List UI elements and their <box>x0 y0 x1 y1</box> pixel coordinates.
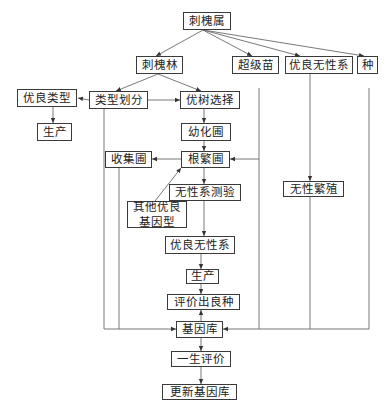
node-clone-test: 无性系测验 <box>169 184 241 201</box>
node-genus: 刺槐属 <box>183 12 231 30</box>
flowchart: 刺槐属 刺槐林 超级苗 优良无性系 种 优良类型 类型划分 优树选择 生产 幼化… <box>0 0 390 412</box>
node-super-seedling: 超级苗 <box>232 56 279 74</box>
node-lifetime-eval: 一生评价 <box>171 351 231 367</box>
edge-type_division-to-good_type <box>78 98 89 100</box>
edge-forest-to-type_division <box>116 74 158 91</box>
node-gene-bank: 基因库 <box>176 321 223 338</box>
node-good-type: 优良类型 <box>17 89 77 107</box>
node-root-nursery: 根繁圃 <box>181 151 230 168</box>
node-collection-nursery: 收集圃 <box>105 151 152 168</box>
node-plus-tree: 优树选择 <box>180 91 240 109</box>
node-type-division: 类型划分 <box>89 91 148 109</box>
node-clone-mid: 优良无性系 <box>165 236 235 254</box>
node-other-genotype: 其他优良 基因型 <box>127 201 187 228</box>
edge-forest-to-plus_tree <box>158 74 201 91</box>
edge-species-to-gene_bank <box>223 88 369 329</box>
node-evaluate-variety: 评价出良种 <box>167 294 240 310</box>
node-clone-top: 优良无性系 <box>285 56 353 74</box>
node-forest: 刺槐林 <box>136 56 183 74</box>
node-juvenile-nursery: 幼化圃 <box>181 123 231 141</box>
node-production-1: 生产 <box>37 123 72 141</box>
node-asexual-propagation: 无性繁殖 <box>283 181 344 197</box>
node-update-bank: 更新基因库 <box>162 384 237 400</box>
node-species: 种 <box>357 56 378 74</box>
node-production-2: 生产 <box>186 269 219 284</box>
edge-genus-to-forest <box>156 30 203 56</box>
